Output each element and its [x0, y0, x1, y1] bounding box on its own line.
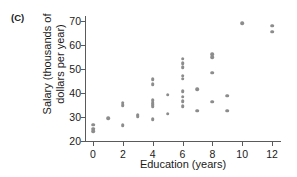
data-point [151, 82, 155, 86]
data-point [225, 94, 229, 98]
data-point [181, 57, 185, 61]
y-tick-mark [81, 21, 85, 22]
data-point [121, 103, 125, 107]
data-point [181, 90, 185, 94]
y-axis-label: Salary (thousands of dollars per year) [36, 2, 72, 126]
x-tick-mark [272, 142, 273, 146]
y-tick-label: 70 [69, 15, 81, 27]
data-point [211, 71, 215, 75]
data-point [270, 30, 274, 34]
data-point [151, 105, 155, 109]
x-tick-mark [242, 142, 243, 146]
y-tick-label: 50 [69, 63, 81, 75]
x-axis-label: Education (years) [85, 158, 281, 170]
data-point [211, 56, 215, 60]
y-tick-mark [81, 45, 85, 46]
data-point [166, 93, 170, 97]
data-point [136, 115, 140, 119]
y-tick-mark [81, 69, 85, 70]
x-tick-mark [153, 142, 154, 146]
y-tick-mark [81, 93, 85, 94]
data-point [181, 99, 185, 103]
x-tick-mark [212, 142, 213, 146]
x-tick-mark [123, 142, 124, 146]
data-point [225, 109, 229, 113]
y-axis-line [85, 16, 86, 141]
panel-label: (C) [11, 12, 24, 23]
scatter-plot-figure: (C) Salary (thousands of dollars per yea… [0, 0, 297, 177]
data-point [240, 21, 244, 25]
data-point [181, 105, 185, 109]
x-tick-mark [93, 142, 94, 146]
data-point [151, 78, 155, 82]
data-point [151, 118, 155, 122]
data-point [166, 112, 170, 116]
y-tick-label: 60 [69, 39, 81, 51]
plot-area: 203040506070 024681012 [85, 16, 288, 141]
data-point [181, 66, 185, 70]
data-point [270, 24, 274, 28]
y-tick-mark [81, 141, 85, 142]
y-tick-label: 40 [69, 87, 81, 99]
data-point [196, 109, 200, 113]
y-tick-label: 30 [69, 111, 81, 123]
data-point [91, 130, 95, 134]
y-tick-label: 20 [69, 135, 81, 147]
data-point [121, 123, 125, 127]
data-point [106, 116, 110, 120]
data-point [181, 77, 185, 81]
data-point [211, 100, 215, 104]
data-point [181, 95, 185, 99]
x-tick-mark [183, 142, 184, 146]
y-axis-label-line1: Salary (thousands of [41, 14, 54, 115]
data-point [196, 87, 200, 91]
y-tick-mark [81, 117, 85, 118]
data-point [181, 61, 185, 65]
y-axis-label-line2: dollars per year) [54, 24, 67, 103]
